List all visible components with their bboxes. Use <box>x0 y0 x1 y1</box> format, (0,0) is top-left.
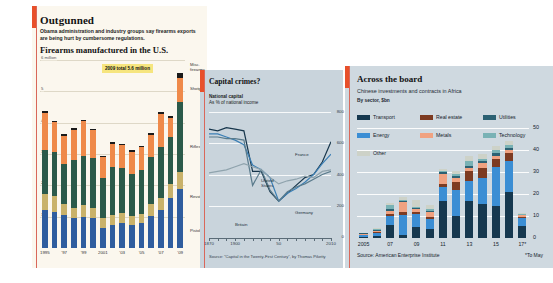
bar-segment-shotguns <box>177 78 182 102</box>
bar-segment-shotguns <box>81 121 86 155</box>
bar-segment-pistols <box>148 216 153 248</box>
bar-segment-transport <box>359 237 367 238</box>
bar-column <box>359 233 367 238</box>
bar-segment-shotguns <box>52 122 57 151</box>
axis-tick <box>253 238 254 241</box>
bar-segment-pistols <box>177 189 182 248</box>
y-tick-label: 30 <box>533 168 539 174</box>
bar-segment-pistols <box>110 225 115 248</box>
x-tick-label: '97 <box>61 250 67 255</box>
bar-segment-rifles <box>100 178 105 218</box>
bar-segment-transport <box>492 206 500 238</box>
bar-segment-transport <box>386 225 394 238</box>
bar-segment-pistols <box>71 218 76 248</box>
bar-segment-pistols <box>61 215 66 248</box>
axis-tick <box>270 238 271 241</box>
footnote-across: *To May <box>525 252 543 258</box>
panel-title-across: Across the board <box>357 74 422 84</box>
y-tick-label: 0 <box>533 234 536 240</box>
bar-segment-transport <box>399 235 407 238</box>
y-tick-label: 20 <box>533 190 539 196</box>
bar-segment-revolvers <box>177 172 182 189</box>
chart-chinese-investments: 01020304050 <box>357 128 529 238</box>
bar-segment-pistols <box>90 218 95 248</box>
gridline <box>357 128 529 129</box>
bar-segment-rifles <box>148 157 153 204</box>
bar-segment-shotguns <box>129 152 134 175</box>
x-axis-capital: 18701900502010 <box>209 238 331 250</box>
x-tick-label: 2005 <box>358 241 370 247</box>
bar-segment-real-estate <box>492 159 500 167</box>
bar-segment-transport <box>373 236 381 238</box>
bar-segment-revolvers <box>168 184 173 197</box>
bar-segment-energy <box>452 190 460 216</box>
bar-segment-transport <box>465 201 473 238</box>
callout-2009-total: 2009 total 5.6 million <box>102 64 153 73</box>
bar-segment-energy <box>426 219 434 229</box>
bar-segment-shotguns <box>158 114 163 148</box>
bar-segment-rifles <box>168 137 173 184</box>
bar-segment-rifles <box>158 147 163 197</box>
bar-segment-rifles <box>177 102 182 173</box>
chart-national-capital: 2004006008000FranceUnitedStatesGermanyBr… <box>209 112 331 237</box>
bar-segment-energy <box>412 214 420 227</box>
bar-segment-energy <box>478 178 486 204</box>
x-tick-label: 17* <box>518 241 526 247</box>
bar-segment-rifles <box>81 156 86 205</box>
bar-segment-rifles <box>90 158 95 208</box>
x-tick-label: 13 <box>467 241 473 247</box>
bar-column <box>61 134 66 248</box>
panel-title-capital: Capital crimes? <box>209 77 260 86</box>
bar-segment-transport <box>478 204 486 238</box>
legend-item-transport: Transport <box>357 114 420 120</box>
y-tick-label: 50 <box>533 124 539 130</box>
y-tick-label: 40 <box>533 146 539 152</box>
bar-segment-transport <box>505 192 513 238</box>
accent-rule-capital <box>204 70 205 268</box>
x-tick-label: 15 <box>493 241 499 247</box>
annotation-united-states: UnitedStates <box>261 178 274 188</box>
bar-segment-revolvers <box>129 216 134 225</box>
y-tick-label: 600 <box>337 140 344 145</box>
bar-segment-shotguns <box>148 135 153 157</box>
axis-tick <box>322 238 323 241</box>
x-tick-label: '99 <box>81 250 87 255</box>
axis-tick <box>244 238 245 241</box>
bar-column <box>81 120 86 248</box>
panel-unit-across: By sector, $bn <box>357 98 390 103</box>
y-tick-label: 6 million <box>41 55 57 60</box>
annotation-britain: Britain <box>235 222 247 227</box>
x-tick-label: 2010 <box>326 241 336 246</box>
bar-segment-revolvers <box>81 205 86 217</box>
bar-segment-energy <box>518 218 526 226</box>
bar-segment-metals <box>399 202 407 212</box>
x-tick-label: 11 <box>440 241 445 247</box>
bar-segment-energy <box>492 167 500 207</box>
bar-segment-shotguns <box>61 136 66 165</box>
bar-segment-shotguns <box>100 157 105 178</box>
bar-column <box>119 144 124 248</box>
bar-segment-pistols <box>129 225 134 248</box>
bar-segment-revolvers <box>158 198 163 210</box>
bar-column <box>412 200 420 238</box>
bar-segment-transport <box>412 227 420 238</box>
bar-segment-shotguns <box>110 144 115 167</box>
legend-item-real-estate: Real estate <box>420 114 483 120</box>
bar-segment-rifles <box>119 168 124 213</box>
bar-segment-rifles <box>61 164 66 203</box>
bar-column <box>129 150 134 248</box>
axis-tick <box>261 238 262 241</box>
axis-tick <box>296 238 297 241</box>
bar-segment-revolvers <box>42 194 47 211</box>
bar-column <box>399 197 407 238</box>
bar-column <box>426 205 434 238</box>
accent-rule-outgunned <box>36 6 37 268</box>
bar-segment-shotguns <box>119 145 124 168</box>
bar-column <box>71 128 76 248</box>
bar-segment-rifles <box>129 174 134 216</box>
axis-tick <box>305 238 306 241</box>
x-axis-firearms: 1995'97'992001'03'05'07'09 <box>40 250 185 260</box>
bar-segment-revolvers <box>52 196 57 212</box>
bar-segment-energy <box>386 216 394 225</box>
bar-column <box>505 141 513 238</box>
